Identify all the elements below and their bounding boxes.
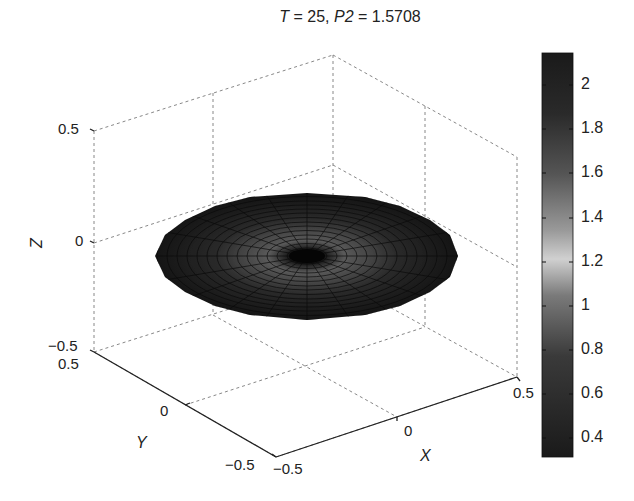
colorbar-tick-label: 1.8 bbox=[581, 119, 603, 137]
colorbar-tick-label: 1.6 bbox=[581, 163, 603, 181]
chart-title: T = 25, P2 = 1.5708 bbox=[230, 8, 470, 26]
y-axis-label: Y bbox=[136, 434, 147, 452]
colorbar-tick-label: 1 bbox=[581, 296, 590, 314]
colorbar-tick-label: 0.8 bbox=[581, 340, 603, 358]
z-axis-label: Z bbox=[26, 238, 44, 248]
x-tick-zero: 0 bbox=[404, 422, 412, 439]
colorbar-tick-label: 1.2 bbox=[581, 252, 603, 270]
title-t-val: = 25, bbox=[289, 8, 334, 25]
x-tick-pos: 0.5 bbox=[513, 384, 534, 401]
disk-surface bbox=[155, 190, 458, 322]
x-axis-label: X bbox=[420, 447, 431, 465]
colorbar bbox=[542, 53, 573, 457]
colorbar-tick-label: 2 bbox=[581, 75, 590, 93]
colorbar-tick-label: 1.4 bbox=[581, 208, 603, 226]
z-tick-zero: 0 bbox=[75, 232, 83, 249]
title-p-val: = 1.5708 bbox=[354, 8, 421, 25]
title-t-var: T bbox=[279, 8, 289, 25]
z-tick-pos: 0.5 bbox=[58, 120, 79, 137]
title-p-var: P2 bbox=[334, 8, 354, 25]
y-tick-neg: −0.5 bbox=[225, 456, 255, 473]
y-tick-pos: 0.5 bbox=[58, 355, 79, 372]
colorbar-tick-label: 0.4 bbox=[581, 428, 603, 446]
x-tick-neg: −0.5 bbox=[273, 460, 303, 477]
colorbar-tick-label: 0.6 bbox=[581, 384, 603, 402]
z-tick-neg: −0.5 bbox=[48, 337, 78, 354]
surface-plot bbox=[0, 0, 634, 501]
y-tick-zero: 0 bbox=[160, 402, 168, 419]
